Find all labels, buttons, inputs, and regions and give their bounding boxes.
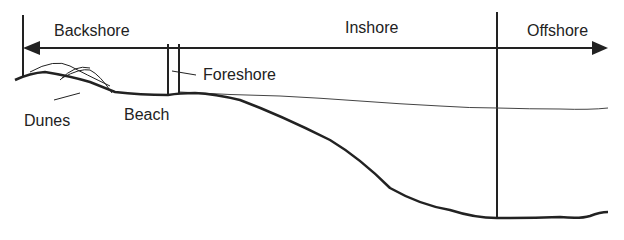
- seabed-profile-line: [15, 72, 608, 218]
- inshore-label: Inshore: [345, 20, 398, 36]
- offshore-label: Offshore: [527, 23, 588, 39]
- right-arrowhead-icon: [592, 41, 608, 55]
- foreshore-label: Foreshore: [203, 67, 276, 83]
- dune-outline-1: [30, 63, 110, 86]
- foreshore-leader-line: [172, 71, 196, 75]
- backshore-label: Backshore: [54, 23, 130, 39]
- dunes-leader-line: [54, 93, 80, 100]
- left-arrowhead-icon: [23, 41, 40, 55]
- dunes-label: Dunes: [24, 113, 70, 129]
- beach-label: Beach: [124, 107, 169, 123]
